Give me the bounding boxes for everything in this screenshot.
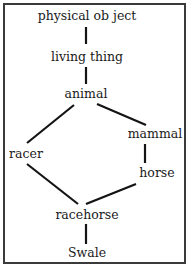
edge-animal-racer — [27, 105, 74, 143]
node-living-thing: living thing — [51, 50, 123, 64]
node-racer: racer — [9, 147, 43, 161]
node-swale: Swale — [68, 246, 106, 260]
node-racehorse: racehorse — [55, 208, 118, 222]
edge-animal-mammal — [97, 104, 146, 125]
edge-racer-racehorse — [27, 164, 78, 204]
node-mammal: mammal — [128, 127, 182, 141]
node-animal: animal — [65, 87, 108, 101]
node-horse: horse — [139, 166, 174, 180]
edge-horse-racehorse — [86, 184, 136, 204]
node-physical-object: physical ob ject — [38, 9, 137, 23]
